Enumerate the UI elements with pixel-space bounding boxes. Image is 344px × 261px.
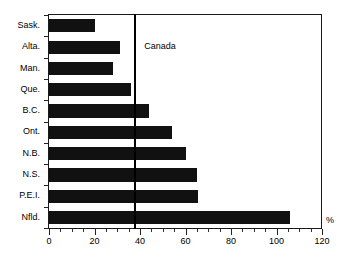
x-axis-minor-tick — [151, 229, 152, 232]
x-axis-major-tick — [49, 229, 50, 235]
x-axis-minor-tick — [242, 229, 243, 232]
x-axis-major-tick — [95, 229, 96, 235]
x-axis-minor-tick — [288, 229, 289, 232]
bar-row — [49, 207, 322, 228]
x-axis-major-tick — [140, 229, 141, 235]
bar-ont — [49, 126, 172, 139]
bar-row — [49, 185, 322, 206]
bar-row — [49, 58, 322, 79]
x-axis-tick-label: 120 — [307, 236, 337, 246]
y-axis-label-sask: Sask. — [0, 15, 44, 36]
bar-n-s — [49, 168, 197, 181]
x-axis-minor-tick — [129, 229, 130, 232]
y-axis-label-que: Que. — [0, 79, 44, 100]
y-axis-label-man: Man. — [0, 58, 44, 79]
bars-area — [49, 15, 322, 228]
bar-row — [49, 121, 322, 142]
x-axis-minor-tick — [197, 229, 198, 232]
bar-p-e-i — [49, 190, 198, 203]
bar-chart: Sask.Alta.Man.Que.B.C.Ont.N.B.N.S.P.E.I.… — [0, 0, 344, 261]
y-axis-label-b-c: B.C. — [0, 100, 44, 121]
bar-alta — [49, 41, 120, 54]
x-axis-minor-tick — [117, 229, 118, 232]
bar-sask — [49, 19, 95, 32]
x-axis-minor-tick — [163, 229, 164, 232]
x-axis-major-tick — [186, 229, 187, 235]
x-axis-major-tick — [231, 229, 232, 235]
x-axis-minor-tick — [72, 229, 73, 232]
y-axis-label-ont: Ont. — [0, 121, 44, 142]
x-axis-minor-tick — [311, 229, 312, 232]
canada-reference-label: Canada — [144, 41, 176, 51]
x-axis-minor-tick — [174, 229, 175, 232]
x-axis-tick-label: 40 — [125, 236, 155, 246]
x-axis-tick-label: 20 — [80, 236, 110, 246]
x-axis-tick-label: 0 — [34, 236, 64, 246]
x-axis-minor-tick — [299, 229, 300, 232]
y-axis-label-n-s: N.S. — [0, 164, 44, 185]
bar-nfld — [49, 211, 290, 224]
x-axis-tick-label: 80 — [216, 236, 246, 246]
bar-que — [49, 83, 131, 96]
y-axis-label-n-b: N.B. — [0, 143, 44, 164]
bar-n-b — [49, 147, 186, 160]
x-axis-minor-tick — [254, 229, 255, 232]
canada-reference-line — [134, 14, 136, 229]
bar-row — [49, 15, 322, 36]
bar-row — [49, 164, 322, 185]
x-axis-tick-label: 100 — [262, 236, 292, 246]
bar-row — [49, 79, 322, 100]
y-axis-label-alta: Alta. — [0, 36, 44, 57]
x-axis-major-tick — [277, 229, 278, 235]
bar-row — [49, 143, 322, 164]
x-axis-tick-label: 60 — [171, 236, 201, 246]
x-axis-minor-tick — [83, 229, 84, 232]
x-axis-minor-tick — [208, 229, 209, 232]
x-axis-minor-tick — [220, 229, 221, 232]
x-axis-minor-tick — [60, 229, 61, 232]
y-axis-label-nfld: Nfld. — [0, 207, 44, 228]
x-axis-minor-tick — [265, 229, 266, 232]
y-axis-label-p-e-i: P.E.I. — [0, 185, 44, 206]
bar-row — [49, 36, 322, 57]
bar-row — [49, 100, 322, 121]
x-axis-unit-label: % — [326, 215, 334, 225]
x-axis-minor-tick — [106, 229, 107, 232]
x-axis-major-tick — [322, 229, 323, 235]
bar-man — [49, 62, 113, 75]
y-axis-category-labels: Sask.Alta.Man.Que.B.C.Ont.N.B.N.S.P.E.I.… — [0, 15, 44, 228]
